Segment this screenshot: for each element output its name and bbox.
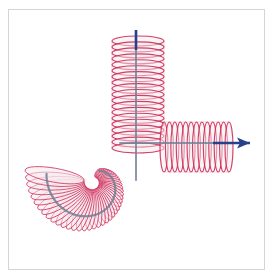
coil-diagram <box>0 0 274 279</box>
spiral-coil <box>24 163 125 232</box>
vertical-helix <box>112 36 164 153</box>
figure-container <box>0 0 274 279</box>
horizontal-helix <box>160 122 233 172</box>
